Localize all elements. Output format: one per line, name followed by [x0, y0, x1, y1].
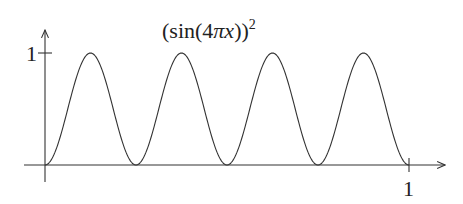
y-tick-label: 1 — [26, 41, 37, 66]
function-plot: (sin(4πx))2 1 1 — [0, 0, 463, 204]
function-curve — [45, 53, 409, 165]
chart-title: (sin(4πx))2 — [162, 17, 256, 43]
x-tick-label: 1 — [403, 176, 414, 201]
